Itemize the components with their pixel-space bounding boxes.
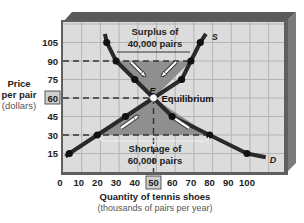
y-tick-label: 45 — [47, 111, 58, 122]
surplus-label-line2: 40,000 pairs — [128, 38, 182, 49]
x-tick-label: 0 — [57, 177, 62, 188]
data-point — [206, 131, 213, 138]
shortage-label-line1: Shortage of — [129, 143, 183, 154]
data-point — [131, 76, 138, 83]
data-point — [122, 113, 129, 120]
y-tick-label: 30 — [47, 130, 58, 141]
x-tick-label: 80 — [204, 177, 215, 188]
y-axis-title-line: (dollars) — [2, 100, 36, 111]
y-axis-title-line: per pair — [2, 89, 37, 100]
data-point — [66, 150, 73, 157]
x-tick-label: 50 — [148, 177, 159, 188]
y-tick-label: 15 — [47, 148, 58, 159]
x-axis-subtitle: (thousands of pairs per year) — [97, 203, 212, 213]
supply-demand-chart: SD EEquilibriumSurplus of40,000 pairsSho… — [0, 0, 304, 223]
y-axis-title-line: Price — [7, 78, 30, 89]
y-tick-label: 105 — [42, 37, 59, 48]
x-tick-label: 30 — [111, 177, 122, 188]
data-point — [113, 57, 120, 64]
data-point — [243, 150, 250, 157]
y-tick-label: 60 — [47, 93, 58, 104]
data-point — [178, 76, 185, 83]
data-point — [197, 39, 204, 46]
x-tick-label: 20 — [92, 177, 103, 188]
equilibrium-text: Equilibrium — [162, 93, 214, 104]
supply-label: S — [212, 32, 218, 42]
x-tick-label: 10 — [73, 177, 84, 188]
data-point — [187, 57, 194, 64]
data-point — [103, 39, 110, 46]
x-tick-label: 60 — [167, 177, 178, 188]
x-tick-label: 90 — [223, 177, 234, 188]
equilibrium-label: E — [150, 86, 157, 96]
shortage-label-line2: 60,000 pairs — [128, 155, 182, 166]
surplus-label-line1: Surplus of — [132, 26, 180, 37]
data-point — [169, 113, 176, 120]
x-tick-label: 40 — [130, 177, 141, 188]
y-tick-label: 75 — [47, 74, 58, 85]
x-tick-label: 100 — [239, 177, 255, 188]
demand-label: D — [270, 155, 277, 165]
x-axis-title: Quantity of tennis shoes — [100, 191, 211, 202]
x-tick-label: 70 — [186, 177, 197, 188]
y-tick-label: 90 — [47, 56, 58, 67]
